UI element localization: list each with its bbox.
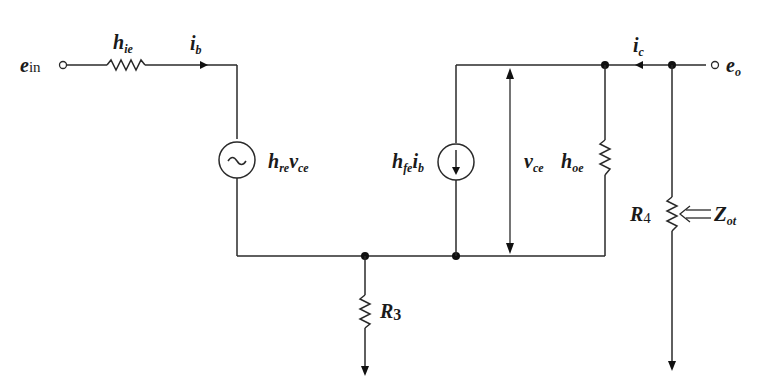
hre-vce-label: hrevce [268, 150, 309, 175]
r3-resistor-icon [360, 295, 370, 328]
ground-arrow-icon [668, 361, 676, 371]
r4-resistor-icon [667, 197, 677, 231]
r3-label: R3 [379, 300, 401, 323]
zot-label: Zot [713, 202, 737, 228]
zot-arrow-icon [680, 206, 711, 222]
vce-label: vce [524, 150, 544, 175]
ib-arrow-icon [200, 61, 208, 69]
eo-label: eo [726, 54, 741, 79]
circuit-svg: ein hie ib hrevce hfeib vce hoe ic eo R3… [0, 0, 773, 391]
hoe-resistor-icon [600, 140, 610, 175]
hoe-label: hoe [561, 150, 584, 175]
hie-label: hie [113, 31, 133, 56]
r4-label: R4 [629, 203, 651, 226]
ic-label: ic [633, 34, 645, 59]
ib-label: ib [190, 32, 202, 57]
circuit-diagram: ein hie ib hrevce hfeib vce hoe ic eo R3… [0, 0, 773, 391]
ground-arrow-icon [361, 366, 369, 376]
output-terminal-icon [712, 62, 719, 69]
input-terminal-icon [60, 62, 67, 69]
ic-arrow-icon [635, 61, 643, 69]
hfe-ib-label: hfeib [392, 150, 424, 175]
ein-label: ein [20, 54, 41, 76]
hie-resistor-icon [107, 60, 145, 70]
